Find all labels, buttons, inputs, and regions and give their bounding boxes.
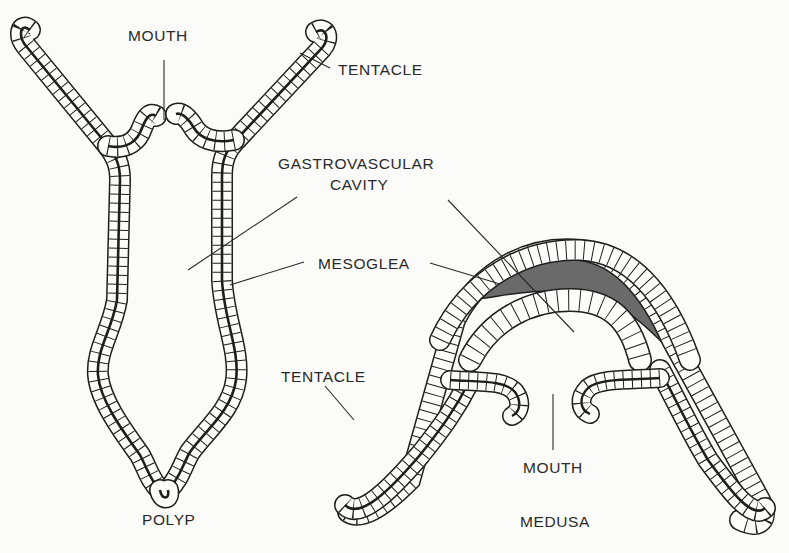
medusa-inner-arch — [470, 300, 640, 360]
label-gastrovascular-cavity-line2: CAVITY — [330, 177, 388, 193]
label-mesoglea: MESOGLEA — [318, 256, 410, 272]
medusa-manubrium-right — [581, 378, 660, 414]
polyp-left-lip — [108, 115, 156, 147]
caption-medusa: MEDUSA — [520, 514, 590, 530]
polyp-base — [160, 490, 168, 498]
polyp-left-wall — [16, 28, 160, 490]
polyp-right-wall — [168, 30, 326, 490]
leader-medusa-tentacle — [325, 386, 354, 420]
diagram-svg — [0, 0, 789, 553]
label-medusa-mouth: MOUTH — [523, 460, 583, 476]
leader-polyp-cavity — [188, 197, 297, 270]
caption-polyp: POLYP — [142, 512, 196, 528]
label-medusa-tentacle: TENTACLE — [281, 369, 366, 385]
label-polyp-mouth: MOUTH — [128, 28, 188, 44]
medusa-body — [345, 247, 765, 524]
polyp-body — [16, 28, 326, 498]
polyp-right-lip — [176, 114, 234, 142]
label-gastrovascular-cavity-line1: GASTROVASCULAR — [278, 156, 434, 172]
leader-polyp-mesoglea — [230, 262, 304, 285]
label-polyp-tentacle: TENTACLE — [338, 62, 423, 78]
diagram-canvas: MOUTH TENTACLE GASTROVASCULAR CAVITY MES… — [0, 0, 789, 553]
